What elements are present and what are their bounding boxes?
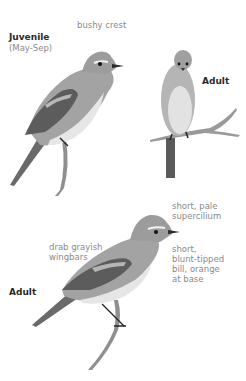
juvenile-season: (May-Sep): [9, 43, 52, 53]
adult-side-bird-icon: [32, 215, 180, 370]
annotation-bill-line1: short,: [172, 244, 197, 254]
annotation-bushy-crest: bushy crest: [77, 20, 126, 30]
adult-front-title: Adult: [202, 76, 229, 86]
annotation-bill-line3: bill, orange: [172, 264, 220, 274]
adult-side-title: Adult: [9, 287, 36, 297]
annotation-supercilium-line2: supercilium: [172, 211, 221, 221]
juvenile-title: Juvenile: [9, 32, 49, 42]
bird-illustrations: [0, 0, 246, 381]
adult-front-bird-icon: [150, 50, 240, 178]
annotation-bill-line4: at base: [172, 274, 204, 284]
juvenile-bird-icon: [10, 52, 124, 196]
annotation-supercilium-line1: short, pale: [172, 201, 217, 211]
annotation-wingbars-line1: drab grayish: [49, 242, 103, 252]
annotation-wingbars-line2: wingbars: [49, 252, 88, 262]
annotation-bill-line2: blunt-tipped: [172, 254, 224, 264]
bird-illustration-plate: Juvenile (May-Sep) bushy crest Adult sho…: [0, 0, 246, 381]
